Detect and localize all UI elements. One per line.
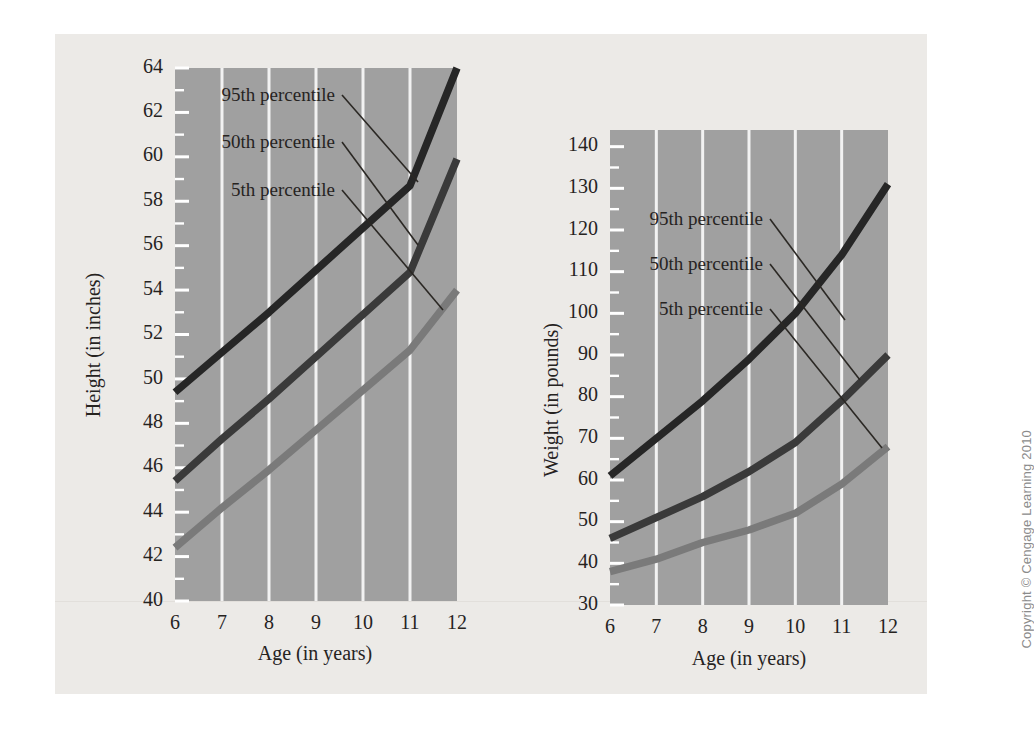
height-label-95th: 95th percentile <box>222 84 335 105</box>
weight-y-tick-140: 140 <box>568 133 598 155</box>
height-y-tick-58: 58 <box>143 188 163 210</box>
weight-y-tick-60: 60 <box>578 467 598 489</box>
weight-y-tick-130: 130 <box>568 175 598 197</box>
height-chart: 40424446485052545658606264 6789101112 95… <box>0 0 500 730</box>
height-x-tick-labels: 6789101112 <box>170 611 467 633</box>
height-x-tick-11: 11 <box>400 611 419 633</box>
weight-y-tick-120: 120 <box>568 217 598 239</box>
weight-chart: 30405060708090100110120130140 6789101112… <box>490 0 940 730</box>
height-x-tick-7: 7 <box>217 611 227 633</box>
weight-y-tick-50: 50 <box>578 508 598 530</box>
weight-y-tick-40: 40 <box>578 550 598 572</box>
weight-y-tick-labels: 30405060708090100110120130140 <box>568 133 598 613</box>
weight-x-tick-9: 9 <box>744 615 754 637</box>
height-x-tick-9: 9 <box>311 611 321 633</box>
copyright-notice: Copyright © Cengage Learning 2010 <box>1019 430 1034 649</box>
height-y-tick-48: 48 <box>143 410 163 432</box>
weight-label-5th: 5th percentile <box>659 298 763 319</box>
weight-x-axis-title: Age (in years) <box>692 647 806 670</box>
weight-label-50th: 50th percentile <box>650 253 763 274</box>
weight-chart-svg: 30405060708090100110120130140 6789101112… <box>490 0 940 730</box>
height-y-tick-42: 42 <box>143 543 163 565</box>
weight-x-tick-7: 7 <box>651 615 661 637</box>
height-y-tick-62: 62 <box>143 99 163 121</box>
height-y-tick-46: 46 <box>143 454 163 476</box>
weight-y-tick-80: 80 <box>578 383 598 405</box>
height-y-tick-labels: 40424446485052545658606264 <box>143 55 163 610</box>
height-chart-svg: 40424446485052545658606264 6789101112 95… <box>0 0 500 730</box>
height-label-5th: 5th percentile <box>231 179 335 200</box>
weight-y-tick-110: 110 <box>569 258 598 280</box>
height-x-tick-6: 6 <box>170 611 180 633</box>
weight-x-tick-8: 8 <box>698 615 708 637</box>
weight-x-tick-11: 11 <box>832 615 851 637</box>
height-x-tick-10: 10 <box>353 611 373 633</box>
weight-y-tick-30: 30 <box>578 592 598 614</box>
weight-y-tick-90: 90 <box>578 342 598 364</box>
weight-x-tick-6: 6 <box>605 615 615 637</box>
height-x-tick-12: 12 <box>447 611 467 633</box>
height-y-tick-56: 56 <box>143 232 163 254</box>
height-y-tick-44: 44 <box>143 499 163 521</box>
height-x-tick-8: 8 <box>264 611 274 633</box>
height-y-tick-50: 50 <box>143 366 163 388</box>
weight-y-tick-70: 70 <box>578 425 598 447</box>
weight-y-axis-title: Weight (in pounds) <box>540 323 563 477</box>
height-label-50th: 50th percentile <box>222 131 335 152</box>
height-y-tick-40: 40 <box>143 588 163 610</box>
height-y-tick-64: 64 <box>143 55 163 77</box>
weight-label-95th: 95th percentile <box>650 208 763 229</box>
weight-x-tick-labels: 6789101112 <box>605 615 898 637</box>
height-x-axis-title: Age (in years) <box>258 642 372 665</box>
weight-x-tick-10: 10 <box>785 615 805 637</box>
height-y-axis-title: Height (in inches) <box>82 273 105 417</box>
weight-y-tick-100: 100 <box>568 300 598 322</box>
weight-x-tick-12: 12 <box>878 615 898 637</box>
height-y-tick-54: 54 <box>143 277 163 299</box>
height-y-tick-52: 52 <box>143 321 163 343</box>
height-y-tick-60: 60 <box>143 143 163 165</box>
